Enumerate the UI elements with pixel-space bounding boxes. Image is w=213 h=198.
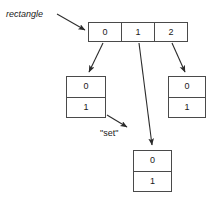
left-child-node: 0 1 <box>66 76 106 118</box>
right-child-node: 0 1 <box>168 76 206 118</box>
edge-array1-to-bottom-child <box>139 43 152 145</box>
edge-left-child-to-set-label <box>107 115 127 127</box>
array-node: 0 1 2 <box>88 22 188 42</box>
bottom-child-cell-1: 1 <box>134 172 171 192</box>
left-child-cell-0: 0 <box>67 77 105 98</box>
array-cell-0: 0 <box>89 23 122 41</box>
edge-rectangle-to-array <box>57 14 85 30</box>
bottom-child-cell-0: 0 <box>134 151 171 172</box>
bottom-child-node: 0 1 <box>133 150 172 192</box>
rectangle-label: rectangle <box>6 10 43 19</box>
left-child-cell-1: 1 <box>67 98 105 118</box>
array-cell-2: 2 <box>155 23 187 41</box>
right-child-cell-0: 0 <box>169 77 205 98</box>
set-label: "set" <box>100 129 118 138</box>
array-cell-1: 1 <box>122 23 155 41</box>
edge-array2-to-right-child <box>172 43 185 72</box>
edge-array0-to-left-child <box>89 43 103 72</box>
right-child-cell-1: 1 <box>169 98 205 118</box>
pointer-structure-diagram: rectangle 0 1 2 0 1 0 1 0 1 "set" <box>0 0 213 198</box>
